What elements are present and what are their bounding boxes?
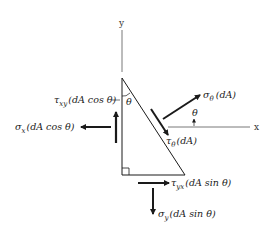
sigma-theta-label: σθ(dA) <box>203 89 236 103</box>
tau-yx-label: τyx(dA sin θ) <box>171 177 232 191</box>
tau-xy-label: τxy(dA cos θ) <box>54 94 116 108</box>
theta-label-normal: θ <box>192 107 198 118</box>
sigma-y-force: σy(dA sin θ) <box>153 188 216 222</box>
theta-label-top: θ <box>126 96 132 107</box>
tau-theta-force: τθ(dA) <box>151 109 197 149</box>
sigma-y-label: σy(dA sin θ) <box>158 208 216 222</box>
sigma-x-force: σx(dA cos θ) <box>15 121 111 135</box>
sigma-theta-force: σθ(dA) <box>163 89 236 119</box>
right-angle-marker <box>122 168 129 175</box>
tau-theta-label: τθ(dA) <box>166 135 197 149</box>
y-axis: y <box>118 18 125 72</box>
stress-element-diagram: y x θ τxy(dA cos θ) σx(dA cos θ) τθ(dA) <box>0 0 279 231</box>
normal-angle-marker: θ <box>192 107 198 126</box>
x-axis: x <box>168 122 259 132</box>
triangular-element <box>122 78 185 175</box>
x-axis-label: x <box>254 122 259 132</box>
y-axis-label: y <box>118 18 125 28</box>
sigma-x-label: σx(dA cos θ) <box>15 121 75 135</box>
top-angle-marker: θ <box>122 93 132 107</box>
tau-theta-arrow <box>151 109 168 135</box>
tau-xy-force: τxy(dA cos θ) <box>54 94 120 143</box>
